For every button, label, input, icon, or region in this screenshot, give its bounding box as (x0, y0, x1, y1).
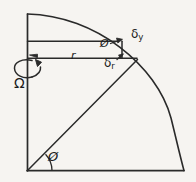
omega-label: Ω (14, 76, 25, 90)
delta-y-label: δy (131, 28, 143, 41)
delta-y-subscript: y (138, 32, 143, 42)
radial-line (28, 60, 138, 171)
rotation-arrowhead (36, 60, 42, 67)
diagram-canvas: Ø Ø r Ω δy δr (0, 0, 196, 182)
r-line-arrowhead (30, 54, 38, 57)
phi-top-label: Ø (100, 38, 109, 49)
diagram-strokes (0, 0, 196, 182)
rotation-arrow-ellipse-right (32, 67, 41, 77)
phi-bottom-label: Ø (48, 150, 58, 163)
radius-label: r (71, 50, 76, 61)
delta-r-label: δr (104, 57, 115, 70)
delta-r-subscript: r (111, 61, 115, 71)
